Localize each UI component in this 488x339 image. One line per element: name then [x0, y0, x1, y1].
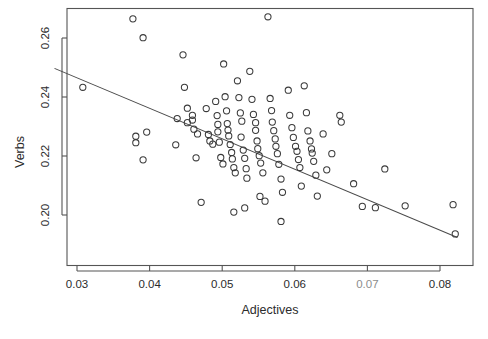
data-point	[216, 139, 222, 145]
data-point	[285, 87, 291, 93]
data-point	[274, 151, 280, 157]
x-tick-label: 0.08	[429, 278, 451, 290]
data-point	[253, 127, 259, 133]
data-point	[226, 133, 232, 139]
data-point	[244, 175, 250, 181]
y-axis-ticks	[62, 38, 67, 215]
plot-canvas: 0.030.040.050.060.070.08 0.200.220.240.2…	[0, 0, 488, 339]
data-point	[295, 156, 301, 162]
data-point	[214, 112, 220, 118]
y-tick-label: 0.26	[39, 27, 51, 49]
data-point	[236, 94, 242, 100]
data-point	[237, 110, 243, 116]
data-point	[272, 136, 278, 142]
data-point	[198, 199, 204, 205]
data-point	[215, 129, 221, 135]
data-point	[133, 133, 139, 139]
data-point	[271, 128, 277, 134]
data-point	[222, 94, 228, 100]
data-point	[189, 117, 195, 123]
data-point	[289, 125, 295, 131]
data-point	[140, 35, 146, 41]
data-point	[254, 138, 260, 144]
scatter-plot-figure: 0.030.040.050.060.070.08 0.200.220.240.2…	[0, 0, 488, 339]
x-tick-label: 0.04	[138, 278, 161, 290]
data-point	[181, 84, 187, 90]
x-tick-label: 0.05	[211, 278, 233, 290]
data-point	[193, 155, 199, 161]
data-point	[258, 160, 264, 166]
data-point	[225, 127, 231, 133]
data-point	[205, 131, 211, 137]
data-point	[242, 205, 248, 211]
data-point	[221, 61, 227, 67]
data-point	[130, 16, 136, 22]
data-point	[218, 154, 224, 160]
data-point	[144, 129, 150, 135]
data-point	[313, 172, 319, 178]
x-axis-tick-labels: 0.030.040.050.060.070.08	[66, 278, 451, 290]
data-point	[253, 120, 259, 126]
data-point	[224, 120, 230, 126]
data-point	[298, 183, 304, 189]
x-tick-label: 0.03	[66, 278, 88, 290]
data-point	[184, 105, 190, 111]
data-point	[267, 95, 273, 101]
y-axis-title: Verbs	[13, 136, 27, 168]
data-point	[382, 166, 388, 172]
data-point	[260, 170, 266, 176]
data-point	[257, 193, 263, 199]
data-point	[311, 158, 317, 164]
data-point	[307, 138, 313, 144]
data-point	[234, 78, 240, 84]
data-point	[220, 161, 226, 167]
data-point	[402, 203, 408, 209]
data-point	[229, 149, 235, 155]
data-point	[372, 205, 378, 211]
data-point	[262, 198, 268, 204]
data-point	[278, 176, 284, 182]
data-point	[180, 52, 186, 58]
x-tick-label: 0.06	[284, 278, 306, 290]
data-point	[287, 112, 293, 118]
data-point	[173, 142, 179, 148]
data-point	[329, 151, 335, 157]
data-point	[351, 181, 357, 187]
y-tick-label: 0.24	[39, 85, 51, 108]
data-point	[338, 119, 344, 125]
data-point	[337, 112, 343, 118]
data-point	[450, 202, 456, 208]
data-point	[133, 140, 139, 146]
data-point	[269, 119, 275, 125]
data-point	[223, 108, 229, 114]
plot-frame	[67, 9, 473, 266]
data-point	[255, 146, 261, 152]
data-point	[301, 83, 307, 89]
data-point	[279, 189, 285, 195]
data-point	[359, 203, 365, 209]
data-point	[278, 218, 284, 224]
x-tick-label: 0.07	[356, 278, 378, 290]
data-point	[194, 131, 200, 137]
data-point	[309, 150, 315, 156]
x-axis-title: Adjectives	[242, 303, 299, 317]
data-point	[250, 111, 256, 117]
data-point	[231, 209, 237, 215]
data-point	[324, 167, 330, 173]
data-point	[268, 107, 274, 113]
data-point	[229, 156, 235, 162]
data-point	[213, 98, 219, 104]
data-point	[297, 164, 303, 170]
y-axis-tick-labels: 0.200.220.240.26	[39, 27, 51, 226]
data-point	[290, 134, 296, 140]
data-point	[238, 134, 244, 140]
data-point	[273, 143, 279, 149]
data-point	[247, 68, 253, 74]
data-point	[239, 118, 245, 124]
regression-trendline	[54, 68, 457, 237]
data-point	[243, 166, 249, 172]
data-point	[305, 128, 311, 134]
data-point	[303, 110, 309, 116]
data-point	[203, 105, 209, 111]
y-tick-label: 0.22	[39, 145, 51, 167]
